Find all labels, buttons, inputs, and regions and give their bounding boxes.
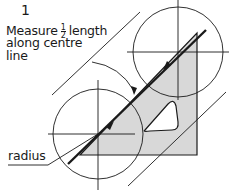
leader-arrowhead — [131, 86, 137, 95]
upper-crosshair — [127, 0, 229, 100]
instruction-line-3: line — [6, 50, 28, 62]
step-number: 1 — [21, 4, 30, 16]
radius-label: radius — [8, 150, 45, 162]
